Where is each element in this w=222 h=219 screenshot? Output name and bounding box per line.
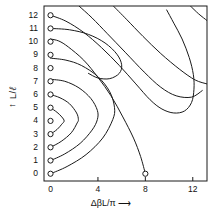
axis-marker bbox=[143, 171, 148, 176]
axis-marker bbox=[48, 132, 53, 137]
y-tick-label: 10 bbox=[20, 37, 38, 46]
axis-marker bbox=[48, 145, 53, 150]
y-axis-label-text: L/ℓ bbox=[7, 86, 18, 99]
contour-curve bbox=[190, 6, 207, 21]
x-tick-label: 12 bbox=[183, 185, 203, 194]
contour-curves bbox=[51, 6, 207, 174]
y-tick-label: 4 bbox=[20, 116, 38, 125]
x-axis-label-text: ΔβL/π ⟶ bbox=[91, 198, 131, 208]
y-tick-label: 2 bbox=[20, 143, 38, 152]
y-tick-label: 0 bbox=[20, 169, 38, 178]
y-tick-label: 6 bbox=[20, 90, 38, 99]
axis-marker bbox=[48, 65, 53, 70]
axis-marker bbox=[48, 158, 53, 163]
contour-curve bbox=[51, 79, 99, 160]
plot-frame bbox=[44, 6, 207, 181]
axis-marker bbox=[48, 26, 53, 31]
axis-marker bbox=[48, 39, 53, 44]
y-axis-arrow-icon: ↑ bbox=[7, 103, 17, 108]
y-tick-label: 9 bbox=[20, 50, 38, 59]
y-tick-label: 5 bbox=[20, 103, 38, 112]
y-tick-label: 7 bbox=[20, 77, 38, 86]
axis-marker bbox=[48, 52, 53, 57]
figure-container: 0123456789101112 04812 ↑ L/ℓ ΔβL/π ⟶ bbox=[0, 0, 222, 219]
x-tick-label: 0 bbox=[41, 185, 61, 194]
axis-marker bbox=[48, 92, 53, 97]
y-tick-label: 1 bbox=[20, 156, 38, 165]
y-tick-label: 8 bbox=[20, 64, 38, 73]
y-tick-label: 12 bbox=[20, 11, 38, 20]
x-tick-label: 8 bbox=[135, 185, 155, 194]
contour-curve bbox=[79, 6, 202, 98]
axis-marker bbox=[48, 105, 53, 110]
axis-marker-points bbox=[48, 13, 148, 177]
axis-marker bbox=[48, 171, 53, 176]
axis-marker bbox=[48, 118, 53, 123]
contour-curve bbox=[51, 28, 122, 79]
y-axis-label: ↑ L/ℓ bbox=[2, 70, 22, 126]
axis-marker bbox=[48, 79, 53, 84]
axis-marker bbox=[48, 13, 53, 18]
x-axis-label: ΔβL/π ⟶ bbox=[0, 198, 222, 208]
y-tick-label: 11 bbox=[20, 24, 38, 33]
x-tick-label: 4 bbox=[88, 185, 108, 194]
y-tick-label: 3 bbox=[20, 130, 38, 139]
axis-ticks bbox=[98, 177, 193, 181]
